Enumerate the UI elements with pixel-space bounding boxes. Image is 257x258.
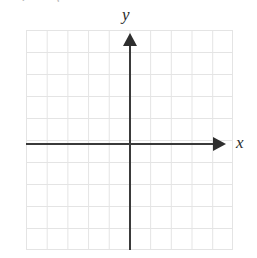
y-axis-line: [129, 40, 131, 250]
arrow-up-icon: [123, 33, 137, 46]
y-axis-label: y: [122, 6, 130, 23]
x-axis-label: x: [236, 134, 244, 151]
arrow-right-icon: [213, 137, 226, 151]
clipped-text-remnant: . ,: [22, 0, 142, 2]
coordinate-grid-figure: . , y x: [0, 0, 257, 258]
x-axis-line: [26, 143, 218, 145]
